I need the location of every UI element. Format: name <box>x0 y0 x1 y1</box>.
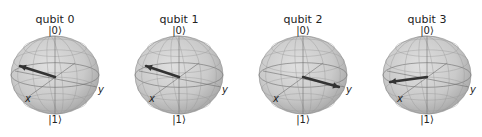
ket-zero-label: |0⟩ <box>296 25 310 37</box>
bloch-sphere-3: qubit 3|0⟩|1⟩xy <box>383 13 477 126</box>
ket-zero-label: |0⟩ <box>420 25 434 37</box>
ket-one-label: |1⟩ <box>172 114 186 126</box>
bloch-sphere-1: qubit 1|0⟩|1⟩xy <box>135 13 229 126</box>
x-axis-label: x <box>396 93 403 104</box>
x-axis-label: x <box>272 93 279 104</box>
x-axis-label: x <box>24 93 31 104</box>
bloch-sphere-0: qubit 0|0⟩|1⟩xy <box>11 13 105 126</box>
y-axis-label: y <box>469 84 477 95</box>
x-axis-label: x <box>148 93 155 104</box>
ket-one-label: |1⟩ <box>48 114 62 126</box>
y-axis-label: y <box>345 84 353 95</box>
ket-zero-label: |0⟩ <box>48 25 62 37</box>
ket-one-label: |1⟩ <box>296 114 310 126</box>
y-axis-label: y <box>221 84 229 95</box>
ket-one-label: |1⟩ <box>420 114 434 126</box>
bloch-sphere-2: qubit 2|0⟩|1⟩xy <box>259 13 353 126</box>
y-axis-label: y <box>97 84 105 95</box>
ket-zero-label: |0⟩ <box>172 25 186 37</box>
bloch-multivector-figure: qubit 0|0⟩|1⟩xyqubit 1|0⟩|1⟩xyqubit 2|0⟩… <box>0 0 482 137</box>
